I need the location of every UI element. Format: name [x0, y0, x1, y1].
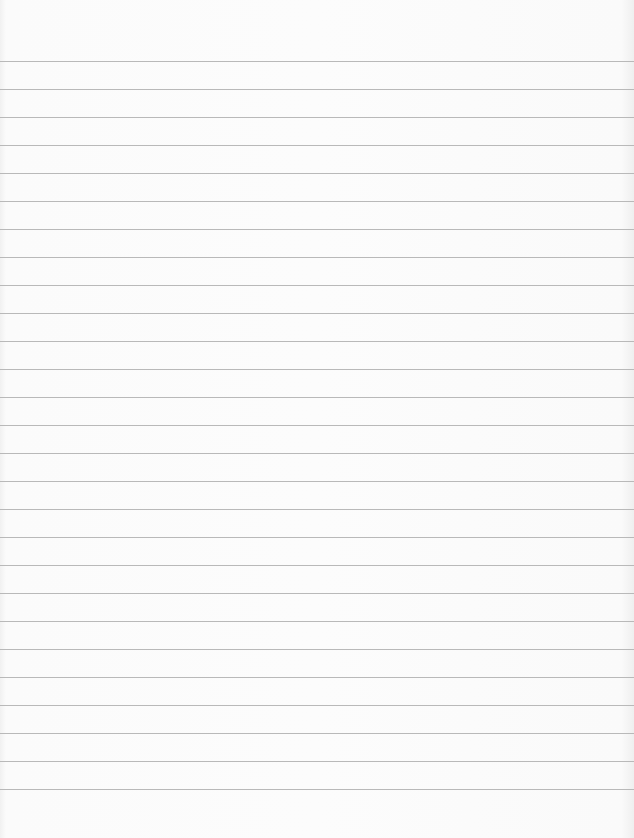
lined-paper-sheet — [0, 0, 634, 838]
ruled-line — [0, 453, 634, 454]
ruled-line — [0, 369, 634, 370]
ruled-line — [0, 313, 634, 314]
ruled-line — [0, 173, 634, 174]
ruled-line — [0, 677, 634, 678]
ruled-line — [0, 61, 634, 62]
ruled-line — [0, 509, 634, 510]
ruled-line — [0, 621, 634, 622]
ruled-line — [0, 593, 634, 594]
ruled-line — [0, 565, 634, 566]
ruled-line — [0, 397, 634, 398]
ruled-line — [0, 89, 634, 90]
ruled-line — [0, 285, 634, 286]
ruled-line — [0, 649, 634, 650]
ruled-line — [0, 705, 634, 706]
ruled-line — [0, 733, 634, 734]
ruled-line — [0, 229, 634, 230]
ruled-line — [0, 537, 634, 538]
ruled-line — [0, 341, 634, 342]
ruled-line — [0, 257, 634, 258]
ruled-line — [0, 789, 634, 790]
ruled-line — [0, 145, 634, 146]
ruled-line — [0, 425, 634, 426]
ruled-line — [0, 761, 634, 762]
ruled-line — [0, 201, 634, 202]
ruled-line — [0, 117, 634, 118]
ruled-line — [0, 481, 634, 482]
